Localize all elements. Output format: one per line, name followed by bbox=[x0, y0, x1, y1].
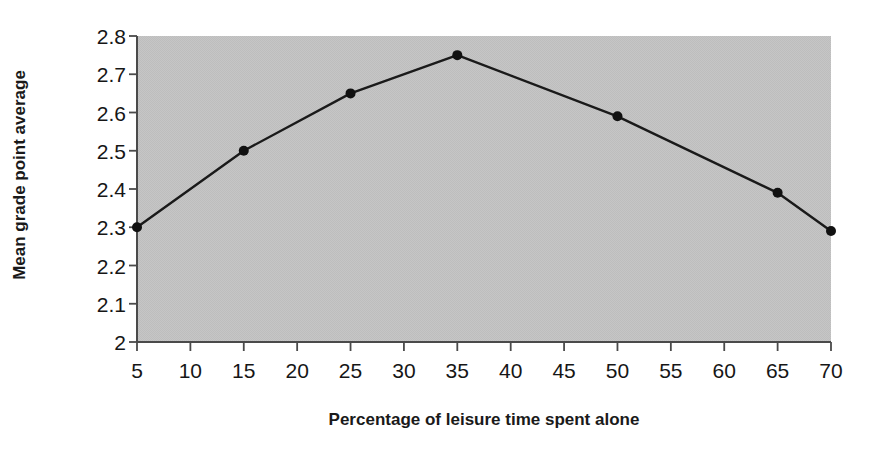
x-axis-title: Percentage of leisure time spent alone bbox=[137, 410, 831, 430]
chart-figure: Mean grade point average 22.12.22.32.42.… bbox=[0, 0, 875, 466]
data-point bbox=[612, 111, 622, 121]
plot-area bbox=[0, 0, 875, 466]
data-point bbox=[132, 222, 142, 232]
data-point bbox=[346, 88, 356, 98]
plot-background bbox=[137, 36, 831, 342]
data-point bbox=[452, 50, 462, 60]
data-point bbox=[826, 226, 836, 236]
x-axis-title-text: Percentage of leisure time spent alone bbox=[329, 410, 640, 429]
data-point bbox=[239, 146, 249, 156]
data-point bbox=[773, 188, 783, 198]
